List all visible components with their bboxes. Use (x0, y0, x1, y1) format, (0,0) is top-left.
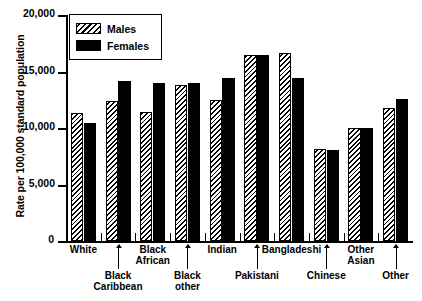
x-axis-label: Black other (156, 270, 218, 292)
x-axis-label: Pakistani (226, 270, 288, 281)
label-leader-arrow-icon (326, 245, 327, 269)
y-tick-label: 15,000 (23, 64, 55, 76)
x-axis-label: Other Asian (330, 244, 392, 266)
bar-males (106, 101, 118, 241)
legend-item-females: Females (76, 37, 155, 54)
y-tick-label: 10,000 (23, 120, 55, 132)
chart-legend: Males Females (69, 14, 162, 60)
bar-females (222, 78, 234, 241)
y-tick: 5,000 (58, 185, 66, 187)
x-axis-line (66, 241, 413, 243)
bar-females (396, 99, 408, 241)
group-separator (344, 233, 345, 241)
bar-males (383, 108, 395, 241)
x-axis-label: Other (365, 270, 422, 281)
x-axis-label: Indian (191, 244, 253, 255)
group-separator (135, 233, 136, 241)
y-tick-label: 5,000 (29, 177, 55, 189)
group-separator (240, 233, 241, 241)
y-axis-line (66, 15, 68, 243)
group-separator (309, 233, 310, 241)
x-axis-label: White (52, 244, 114, 255)
x-axis-label: Black African (122, 244, 184, 266)
bar-males (175, 85, 187, 241)
bar-females (327, 150, 339, 241)
bar-females (292, 78, 304, 241)
x-axis-label: Black Caribbean (87, 270, 149, 292)
bar-males (140, 112, 152, 241)
group-separator (378, 233, 379, 241)
y-tick: 10,000 (58, 128, 66, 130)
bar-females (153, 83, 165, 241)
label-leader-arrow-icon (118, 245, 119, 269)
bar-males (314, 149, 326, 241)
y-tick: 0 (58, 241, 66, 243)
bar-females (84, 123, 96, 241)
group-separator (101, 233, 102, 241)
bar-males (244, 55, 256, 241)
legend-label-females: Females (107, 40, 149, 52)
ethnicity-mortality-rate-bar-chart: Rate per 100,000 standard population 20,… (0, 0, 422, 301)
y-tick-label: 20,000 (23, 7, 55, 19)
label-leader-arrow-icon (396, 245, 397, 269)
bar-females (118, 81, 130, 241)
y-tick: 15,000 (58, 72, 66, 74)
legend-label-males: Males (107, 23, 136, 35)
group-separator (274, 233, 275, 241)
bar-males (348, 128, 360, 241)
x-axis-label: Chinese (295, 270, 357, 281)
bar-males (210, 100, 222, 241)
bar-females (188, 83, 200, 241)
solid-swatch-icon (76, 40, 101, 51)
label-leader-arrow-icon (187, 245, 188, 269)
legend-item-males: Males (76, 20, 155, 37)
group-separator (205, 233, 206, 241)
bar-females (257, 55, 269, 241)
group-separator (170, 233, 171, 241)
bar-females (361, 128, 373, 241)
label-leader-arrow-icon (257, 245, 258, 269)
hatch-swatch-icon (76, 23, 101, 34)
bar-males (279, 53, 291, 241)
y-tick: 20,000 (58, 15, 66, 17)
x-axis-label: Bangladeshi (261, 244, 323, 255)
bar-males (71, 113, 83, 241)
